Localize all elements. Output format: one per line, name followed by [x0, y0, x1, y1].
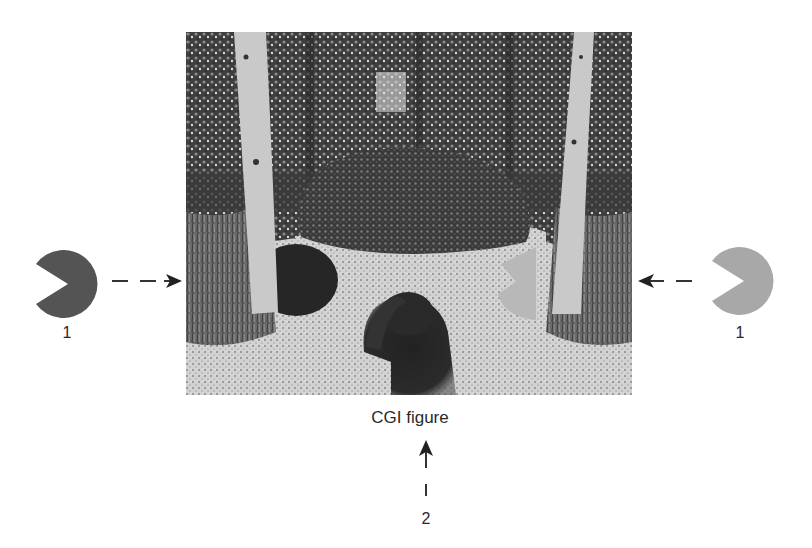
left-arrow — [110, 272, 186, 290]
bottom-arrow — [418, 438, 434, 510]
right-inducer — [710, 246, 778, 316]
arrow-left-icon — [634, 272, 710, 290]
bottom-pointer-label: 2 — [411, 510, 441, 528]
cgi-scene-image — [186, 32, 632, 395]
left-inducer-label: 1 — [52, 324, 82, 342]
pacman-dark-icon — [34, 250, 102, 318]
right-inducer-label: 1 — [725, 324, 755, 342]
pacman-light-icon — [710, 246, 778, 316]
arrow-right-icon — [110, 272, 186, 290]
arrow-up-icon — [418, 438, 434, 510]
right-arrow — [634, 272, 710, 290]
figure-caption: CGI figure — [340, 408, 480, 428]
left-inducer — [34, 250, 102, 318]
